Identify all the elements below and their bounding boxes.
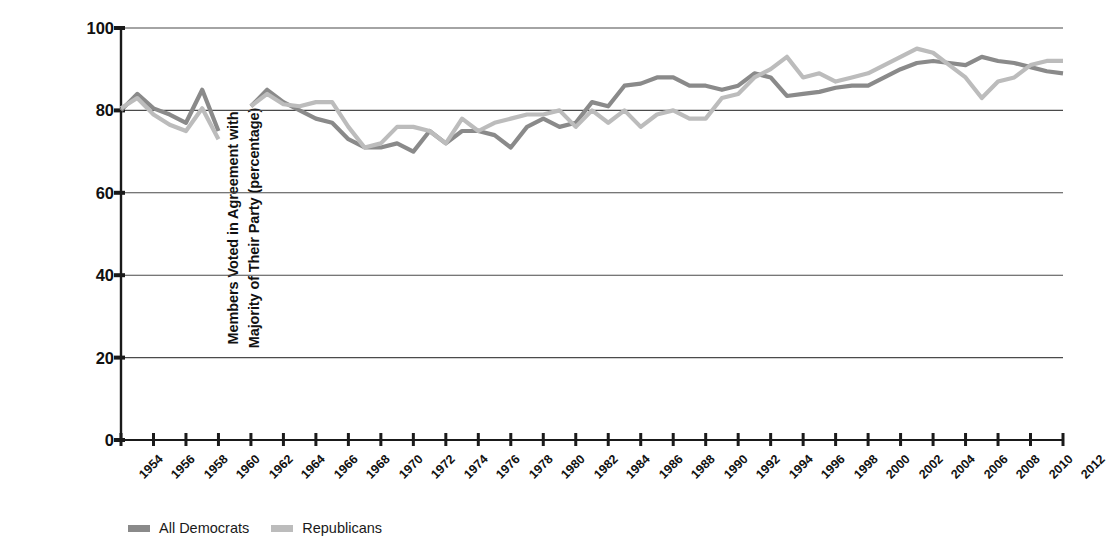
chart-legend: All Democrats Republicans bbox=[128, 520, 382, 536]
legend-label-all-democrats: All Democrats bbox=[159, 520, 249, 536]
legend-swatch-all-democrats bbox=[128, 525, 150, 532]
legend-item-all-democrats: All Democrats bbox=[128, 520, 249, 536]
series-line-1 bbox=[121, 98, 218, 139]
x-tick-label-2012: 2012 bbox=[1078, 452, 1108, 482]
legend-swatch-republicans bbox=[271, 525, 293, 532]
series-all-democrats bbox=[121, 57, 1063, 152]
series-line-0 bbox=[251, 57, 1063, 152]
legend-label-republicans: Republicans bbox=[302, 520, 382, 536]
legend-item-republicans: Republicans bbox=[271, 520, 382, 536]
